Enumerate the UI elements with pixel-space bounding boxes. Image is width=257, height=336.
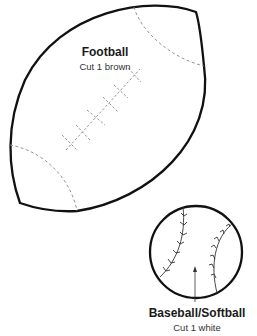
- baseball-title: Baseball/Softball: [137, 306, 257, 320]
- baseball-shape: [150, 206, 242, 302]
- football-title: Football: [60, 45, 150, 59]
- football-shape: [10, 6, 205, 212]
- baseball-instruction: Cut 1 white: [147, 322, 247, 333]
- pattern-sheet: Football Cut 1 brown Baseball/Softball C…: [0, 0, 257, 336]
- football-instruction: Cut 1 brown: [55, 61, 155, 72]
